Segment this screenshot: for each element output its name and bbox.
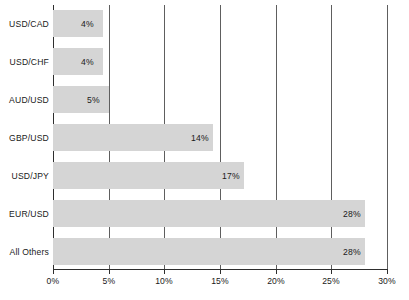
- category-label-eur-usd: EUR/USD: [0, 210, 49, 219]
- x-tick-label: 20%: [267, 277, 285, 286]
- x-tick-mark: [276, 270, 277, 274]
- bar-value-label: 5%: [87, 95, 100, 104]
- bar-value-label: 28%: [343, 247, 361, 256]
- category-label-aud-usd: AUD/USD: [0, 96, 49, 105]
- x-tick-label: 30%: [378, 277, 396, 286]
- bar-value-label: 17%: [222, 171, 240, 180]
- x-tick-label: 25%: [322, 277, 340, 286]
- bar-eur-usd[interactable]: [53, 200, 365, 227]
- bar-row: 4%: [53, 10, 387, 37]
- x-tick-mark: [220, 270, 221, 274]
- category-label-gbp-usd: GBP/USD: [0, 134, 49, 143]
- bar-row: 17%: [53, 162, 387, 189]
- bar-value-label: 4%: [81, 57, 94, 66]
- bar-usd-cad[interactable]: [53, 10, 103, 37]
- category-label-all-others: All Others: [0, 248, 49, 257]
- bar-gbp-usd[interactable]: [53, 124, 213, 151]
- x-tick-mark: [331, 270, 332, 274]
- category-label-usd-cad: USD/CAD: [0, 20, 49, 29]
- bar-usd-jpy[interactable]: [53, 162, 244, 189]
- bar-row: 28%: [53, 238, 387, 265]
- bar-chart: USD/CADUSD/CHFAUD/USDGBP/USDUSD/JPYEUR/U…: [0, 0, 409, 300]
- category-axis-labels: USD/CADUSD/CHFAUD/USDGBP/USDUSD/JPYEUR/U…: [0, 5, 49, 270]
- bar-value-label: 4%: [81, 19, 94, 28]
- bar-row: 4%: [53, 48, 387, 75]
- bar-row: 14%: [53, 124, 387, 151]
- bar-usd-chf[interactable]: [53, 48, 103, 75]
- category-label-usd-chf: USD/CHF: [0, 58, 49, 67]
- x-tick-label: 15%: [211, 277, 229, 286]
- x-tick-mark: [387, 270, 388, 274]
- bar-value-label: 28%: [343, 209, 361, 218]
- x-tick-label: 10%: [155, 277, 173, 286]
- bar-row: 28%: [53, 200, 387, 227]
- x-tick-mark: [109, 270, 110, 274]
- x-axis: 0%5%10%15%20%25%30%: [53, 270, 387, 300]
- bar-aud-usd[interactable]: [53, 86, 109, 113]
- bar-value-label: 14%: [191, 133, 209, 142]
- x-tick-label: 5%: [103, 277, 116, 286]
- gridline-30pct: [387, 5, 388, 270]
- x-tick-label: 0%: [47, 277, 60, 286]
- plot-area: 4%4%5%14%17%28%28%: [53, 5, 387, 270]
- x-tick-mark: [53, 270, 54, 274]
- x-tick-mark: [164, 270, 165, 274]
- category-label-usd-jpy: USD/JPY: [0, 172, 49, 181]
- bar-row: 5%: [53, 86, 387, 113]
- bar-all-others[interactable]: [53, 238, 365, 265]
